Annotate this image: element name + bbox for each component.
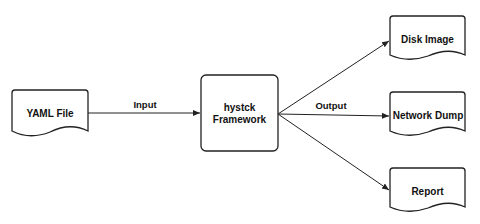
- network-dump-label: Network Dump: [390, 110, 466, 122]
- framework-label-line1: hystck: [201, 102, 278, 114]
- yaml-file-label: YAML File: [12, 108, 88, 120]
- input-edge-label: Input: [120, 99, 170, 111]
- output-edge-label: Output: [306, 100, 356, 112]
- output-edge-network: [278, 114, 389, 116]
- framework-label-line2: Framework: [201, 114, 278, 126]
- report-label: Report: [390, 186, 465, 198]
- disk-image-label: Disk Image: [390, 34, 465, 46]
- output-edge-report: [278, 114, 389, 190]
- diagram-canvas: YAML File Input hystck Framework Output …: [0, 0, 480, 224]
